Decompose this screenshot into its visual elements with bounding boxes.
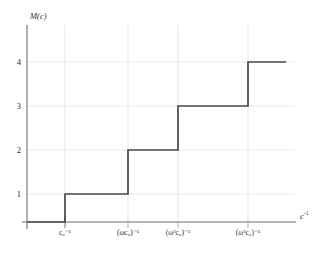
vertical-gridlines [65,25,248,222]
y-tick-label-4: 4 [7,58,21,67]
y-tick-value-3: 3 [17,101,21,111]
x-tick-label-2: (ωc₀)⁻¹ [103,229,153,237]
y-tick-value-4: 4 [17,57,21,67]
plot-canvas [0,0,321,255]
x-tick-value-4: (ω³c₀)⁻¹ [236,228,260,237]
x-tick-label-4: (ω³c₀)⁻¹ [222,229,274,237]
x-axis-label-exponent: -1 [304,210,309,216]
x-tick-value-2: (ωc₀)⁻¹ [117,228,139,237]
step-curve [27,62,286,222]
x-tick-label-3: (ω²c₀)⁻¹ [152,229,204,237]
x-tick-value-3: (ω²c₀)⁻¹ [166,228,190,237]
y-tick-label-1: 1 [7,190,21,199]
y-tick-label-2: 2 [7,146,21,155]
x-tick-value-1: c₀⁻¹ [59,228,71,237]
y-axis-label-text: M(c) [30,11,47,21]
horizontal-gridlines [27,62,295,194]
y-tick-value-2: 2 [17,145,21,155]
y-tick-value-1: 1 [17,189,21,199]
x-axis-label: c-1 [300,211,309,220]
y-tick-label-3: 3 [7,102,21,111]
x-tick-label-1: c₀⁻¹ [49,229,81,237]
step-function-figure: M(c) 4 3 2 1 c₀⁻¹ (ωc₀)⁻¹ (ω²c₀)⁻¹ (ω³c₀… [0,0,321,255]
y-axis-label: M(c) [30,12,47,21]
